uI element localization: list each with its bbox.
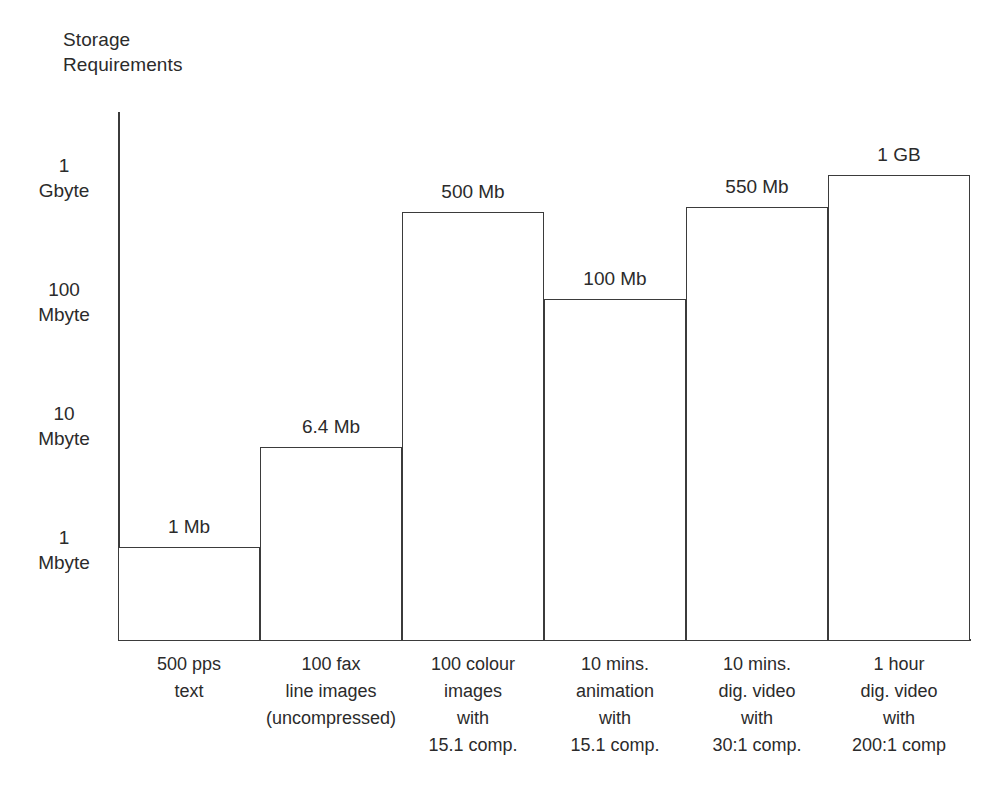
bar-value-label: 500 Mb bbox=[402, 181, 544, 203]
y-axis-tick-label: 100 Mbyte bbox=[18, 277, 110, 327]
bar-value-label: 1 GB bbox=[828, 144, 970, 166]
y-axis-tick-label: 1 Gbyte bbox=[18, 153, 110, 203]
y-axis-tick-label: 10 Mbyte bbox=[18, 401, 110, 451]
x-axis-category-label: 10 mins. animation with 15.1 comp. bbox=[533, 651, 697, 759]
y-axis-tick-label: 1 Mbyte bbox=[18, 525, 110, 575]
bar-value-label: 100 Mb bbox=[544, 268, 686, 290]
storage-requirements-chart: Storage Requirements 1 Gbyte100 Mbyte10 … bbox=[0, 0, 1001, 797]
bar bbox=[260, 447, 402, 640]
x-axis-category-label: 100 colour images with 15.1 comp. bbox=[391, 651, 555, 759]
x-axis-category-label: 10 mins. dig. video with 30:1 comp. bbox=[675, 651, 839, 759]
bar bbox=[118, 547, 260, 640]
bar-value-label: 6.4 Mb bbox=[260, 416, 402, 438]
bar bbox=[686, 207, 828, 640]
bar bbox=[828, 175, 970, 640]
plot-area: 1 Gbyte100 Mbyte10 Mbyte1 Mbyte 1 Mb6.4 … bbox=[0, 0, 1001, 797]
bar bbox=[402, 212, 544, 640]
x-axis-category-label: 500 pps text bbox=[107, 651, 271, 705]
x-axis-category-label: 1 hour dig. video with 200:1 comp bbox=[817, 651, 981, 759]
bar bbox=[544, 299, 686, 640]
bar-value-label: 550 Mb bbox=[686, 176, 828, 198]
bar-value-label: 1 Mb bbox=[118, 516, 260, 538]
x-axis-category-label: 100 fax line images (uncompressed) bbox=[249, 651, 413, 732]
